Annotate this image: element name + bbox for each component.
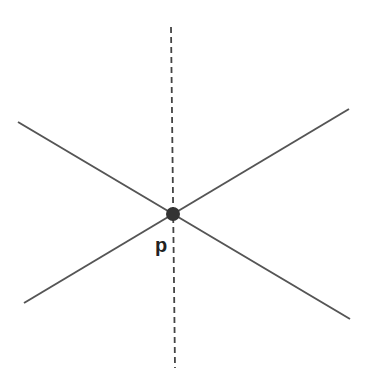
point-label: p xyxy=(155,234,167,256)
solid-line-descending xyxy=(18,122,350,319)
diagram-canvas: p xyxy=(0,0,373,386)
intersection-point xyxy=(166,207,180,221)
solid-line-ascending xyxy=(24,109,349,303)
dashed-line-vertical xyxy=(171,27,175,368)
